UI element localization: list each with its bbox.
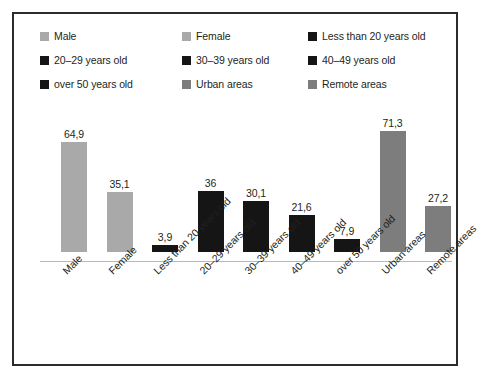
legend-swatch-icon: [182, 32, 191, 41]
legend-item-label: Remote areas: [322, 78, 387, 90]
legend-swatch-icon: [308, 32, 317, 41]
legend-swatch-icon: [308, 56, 317, 65]
chart-legend: MaleFemaleLess than 20 years old20–29 ye…: [40, 24, 440, 96]
x-axis-labels: MaleFemaleLess than 20 years old20–29 ye…: [40, 264, 452, 364]
bar-value-label: 35,1: [109, 178, 129, 190]
legend-item-label: 30–39 years old: [196, 54, 269, 66]
legend-swatch-icon: [40, 32, 49, 41]
chart-frame: MaleFemaleLess than 20 years old20–29 ye…: [12, 12, 458, 366]
bar-column[interactable]: 27,2: [416, 102, 460, 252]
legend-item[interactable]: Remote areas: [308, 78, 440, 90]
legend-item-label: Less than 20 years old: [322, 30, 425, 42]
bar-value-label: 27,2: [428, 192, 448, 204]
bar-value-label: 71,3: [382, 117, 402, 129]
bar-column[interactable]: 3,9: [143, 102, 187, 252]
legend-item-label: 40–49 years old: [322, 54, 395, 66]
legend-swatch-icon: [308, 80, 317, 89]
legend-item-label: 20–29 years old: [54, 54, 127, 66]
legend-item-label: Urban areas: [196, 78, 253, 90]
bar-rect[interactable]: [61, 142, 87, 252]
legend-item[interactable]: Less than 20 years old: [308, 30, 440, 42]
legend-swatch-icon: [40, 80, 49, 89]
legend-item[interactable]: 20–29 years old: [40, 54, 182, 66]
legend-item-label: over 50 years old: [54, 78, 133, 90]
x-axis-tick-label: Male: [60, 252, 84, 276]
bar-column[interactable]: 35,1: [98, 102, 142, 252]
bar-value-label: 36: [205, 177, 216, 189]
legend-item[interactable]: 40–49 years old: [308, 54, 440, 66]
bar-column[interactable]: 64,9: [52, 102, 96, 252]
legend-swatch-icon: [182, 56, 191, 65]
legend-item-label: Male: [54, 30, 76, 42]
legend-item[interactable]: over 50 years old: [40, 78, 182, 90]
legend-item[interactable]: Male: [40, 30, 182, 42]
bar-value-label: 64,9: [64, 128, 84, 140]
bar-rect[interactable]: [107, 192, 133, 252]
legend-swatch-icon: [40, 56, 49, 65]
bar-value-label: 21,6: [291, 201, 311, 213]
bar-value-label: 30,1: [246, 187, 266, 199]
legend-item[interactable]: Female: [182, 30, 308, 42]
legend-item[interactable]: 30–39 years old: [182, 54, 308, 66]
legend-swatch-icon: [182, 80, 191, 89]
bar-value-label: 3,9: [158, 231, 172, 243]
legend-item[interactable]: Urban areas: [182, 78, 308, 90]
legend-item-label: Female: [196, 30, 230, 42]
